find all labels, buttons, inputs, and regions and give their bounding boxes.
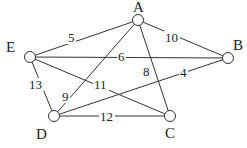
edge-weight-E-C: 11	[94, 77, 107, 92]
edge-weight-A-D: 9	[62, 89, 69, 104]
edge-weight-A-C: 8	[143, 64, 150, 79]
edge-weight-A-B: 10	[165, 30, 178, 45]
node-E	[25, 52, 36, 63]
edge-B-D	[54, 58, 228, 116]
node-B	[223, 53, 234, 64]
node-label-A: A	[133, 0, 144, 15]
edge-E-B	[30, 57, 228, 58]
node-label-D: D	[36, 126, 47, 142]
edge-weight-E-B: 6	[118, 49, 125, 64]
edge-weight-E-D: 13	[29, 77, 42, 92]
edge-weight-E-A: 5	[68, 30, 75, 45]
edge-weight-B-D: 4	[180, 65, 187, 80]
node-label-C: C	[165, 125, 175, 141]
node-label-B: B	[233, 37, 243, 53]
edge-weight-D-C: 12	[100, 109, 113, 124]
node-label-E: E	[6, 39, 15, 55]
edge-A-B	[138, 20, 228, 58]
node-D	[49, 111, 60, 122]
node-C	[165, 111, 176, 122]
graph-diagram: 5106841391112ABCDE	[0, 0, 247, 148]
node-A	[133, 15, 144, 26]
